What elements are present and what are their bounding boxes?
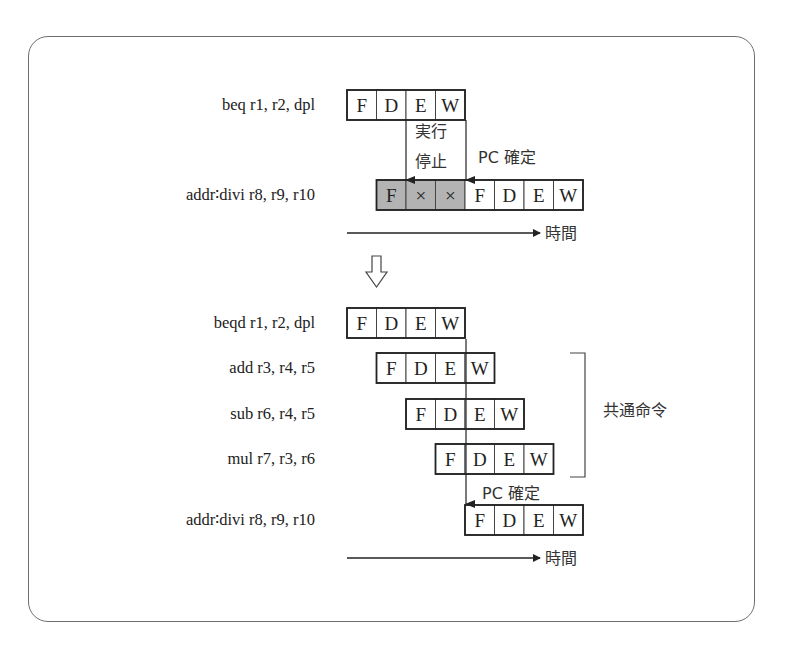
stage-cell: D xyxy=(406,353,436,383)
stage-label: W xyxy=(471,358,489,379)
instruction-row: beqd r1, r2, dplFDEW xyxy=(214,308,465,338)
stall-stage-cell: F xyxy=(377,180,407,210)
stage-label: D xyxy=(384,313,398,334)
pc-determined-label-bottom: PC 確定 xyxy=(482,484,540,503)
instruction-row: add r3, r4, r5FDEW xyxy=(229,353,494,383)
stage-cell: E xyxy=(495,444,525,474)
stage-cell: F xyxy=(347,90,377,120)
stage-cell: E xyxy=(436,353,466,383)
instruction-row: mul r7, r3, r6FDEW xyxy=(227,444,553,474)
stage-cell: W xyxy=(554,180,584,210)
stage-cell: E xyxy=(465,399,495,429)
stage-label: F xyxy=(415,404,426,425)
stage-cell: F xyxy=(347,308,377,338)
common-instructions-label: 共通命令 xyxy=(603,401,667,420)
stage-label: D xyxy=(502,510,516,531)
stage-label: F xyxy=(474,510,485,531)
time-axis-label-bottom: 時間 xyxy=(545,549,577,568)
stage-label: W xyxy=(441,313,459,334)
stage-cell: F xyxy=(406,399,436,429)
stage-label: E xyxy=(444,358,456,379)
instruction-row: beq r1, r2, dplFDEW xyxy=(222,90,465,120)
instruction-label: beqd r1, r2, dpl xyxy=(214,313,316,332)
stage-cell: F xyxy=(465,180,495,210)
stage-label: × xyxy=(415,185,426,206)
stage-label: F xyxy=(356,95,367,116)
stage-cell: F xyxy=(436,444,466,474)
stage-cell: F xyxy=(465,505,495,535)
stall-stage-cell: × xyxy=(436,180,466,210)
stage-label: E xyxy=(415,313,427,334)
stage-label: E xyxy=(503,449,515,470)
stage-label: W xyxy=(559,510,577,531)
instruction-label: add r3, r4, r5 xyxy=(229,358,315,377)
stage-cell: E xyxy=(406,90,436,120)
stage-cell: E xyxy=(524,180,554,210)
instruction-label: addr∶divi r8, r9, r10 xyxy=(186,185,315,204)
stage-cell: W xyxy=(524,444,554,474)
pc-determined-label-top: PC 確定 xyxy=(478,148,536,167)
stage-cell: D xyxy=(377,90,407,120)
instruction-label: sub r6, r4, r5 xyxy=(230,404,315,423)
stage-label: E xyxy=(533,185,545,206)
stage-label: D xyxy=(384,95,398,116)
stage-cell: W xyxy=(465,353,495,383)
instruction-row: addr∶divi r8, r9, r10F××FDEW xyxy=(186,180,583,210)
stage-cell: W xyxy=(495,399,525,429)
instruction-label: mul r7, r3, r6 xyxy=(227,449,315,468)
stage-cell: D xyxy=(465,444,495,474)
stage-label: E xyxy=(533,510,545,531)
pipeline-diagram: beq r1, r2, dplFDEWaddr∶divi r8, r9, r10… xyxy=(0,0,785,647)
stage-cell: D xyxy=(436,399,466,429)
stage-label: F xyxy=(445,449,456,470)
stage-label: W xyxy=(559,185,577,206)
stop-label-line1: 実行 xyxy=(415,122,447,141)
stage-cell: F xyxy=(377,353,407,383)
stage-cell: D xyxy=(377,308,407,338)
stage-label: E xyxy=(415,95,427,116)
stage-label: F xyxy=(386,185,397,206)
instruction-row: addr∶divi r8, r9, r10FDEW xyxy=(186,505,583,535)
stage-label: D xyxy=(502,185,516,206)
time-axis-label-top: 時間 xyxy=(545,224,577,243)
instruction-label: beq r1, r2, dpl xyxy=(222,95,315,114)
stage-label: F xyxy=(474,185,485,206)
common-instructions-bracket xyxy=(570,353,585,477)
stage-label: W xyxy=(500,404,518,425)
stage-label: F xyxy=(386,358,397,379)
stage-label: W xyxy=(441,95,459,116)
stage-cell: D xyxy=(495,180,525,210)
instruction-row: sub r6, r4, r5FDEW xyxy=(230,399,524,429)
stage-label: D xyxy=(414,358,428,379)
stage-label: F xyxy=(356,313,367,334)
stage-label: D xyxy=(443,404,457,425)
stop-label-line2: 停止 xyxy=(415,152,447,171)
instruction-label: addr∶divi r8, r9, r10 xyxy=(186,510,315,529)
stage-label: D xyxy=(473,449,487,470)
stage-cell: W xyxy=(436,308,466,338)
stage-cell: W xyxy=(436,90,466,120)
stage-label: E xyxy=(474,404,486,425)
stage-cell: W xyxy=(554,505,584,535)
hollow-down-arrow-icon xyxy=(366,256,387,287)
stage-cell: D xyxy=(495,505,525,535)
stage-label: × xyxy=(445,185,456,206)
stage-label: W xyxy=(530,449,548,470)
stage-cell: E xyxy=(406,308,436,338)
stall-stage-cell: × xyxy=(406,180,436,210)
stage-cell: E xyxy=(524,505,554,535)
